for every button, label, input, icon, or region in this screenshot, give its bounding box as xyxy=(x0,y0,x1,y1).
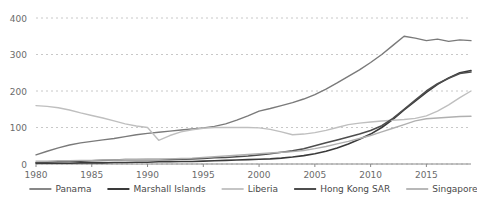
series-line-liberia xyxy=(36,91,471,140)
x-axis-tick-label: 1985 xyxy=(80,170,103,180)
x-axis-tick-label: 2005 xyxy=(303,170,326,180)
legend-label-marshall-islands: Marshall Islands xyxy=(133,184,206,194)
legend-label-panama: Panama xyxy=(55,184,91,194)
chart-canvas: 0100200300400 19801985199019952000200520… xyxy=(0,0,477,206)
legend-label-singapore: Singapore xyxy=(432,184,477,194)
gridlines-group xyxy=(36,18,471,164)
x-axis-tick-label: 1980 xyxy=(25,170,48,180)
y-axis-tick-label: 200 xyxy=(10,87,27,97)
line-chart: 0100200300400 19801985199019952000200520… xyxy=(0,0,477,206)
x-axis-labels-group: 19801985199019952000200520102015 xyxy=(25,170,438,180)
y-axis-tick-label: 400 xyxy=(10,14,27,24)
x-axis-tick-label: 2000 xyxy=(248,170,271,180)
legend-label-liberia: Liberia xyxy=(248,184,278,194)
x-axis-group xyxy=(36,164,471,167)
x-axis-tick-label: 1990 xyxy=(136,170,159,180)
y-axis-tick-label: 300 xyxy=(10,50,27,60)
x-axis-tick-label: 1995 xyxy=(192,170,215,180)
y-axis-tick-label: 0 xyxy=(21,160,27,170)
y-axis-labels-group: 0100200300400 xyxy=(10,14,27,170)
y-axis-tick-label: 100 xyxy=(10,123,27,133)
legend-label-hong-kong-sar: Hong Kong SAR xyxy=(320,184,390,194)
series-lines-group xyxy=(36,36,471,163)
series-line-singapore xyxy=(36,116,471,161)
x-axis-tick-label: 2010 xyxy=(359,170,382,180)
x-axis-tick-label: 2015 xyxy=(415,170,438,180)
legend-group: PanamaMarshall IslandsLiberiaHong Kong S… xyxy=(29,184,477,194)
